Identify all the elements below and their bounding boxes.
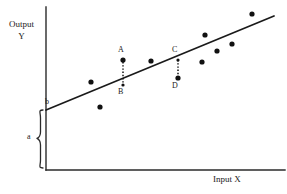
data-point	[249, 11, 254, 16]
y-axis-label-line2: Y	[9, 32, 34, 41]
y-axis-label-line1: Output	[9, 19, 34, 29]
data-point	[199, 59, 204, 64]
chart-canvas	[0, 0, 287, 194]
brace-label-a: a	[27, 133, 31, 141]
fitted-point-c	[176, 58, 179, 61]
x-axis-label: Input X	[213, 175, 241, 184]
intercept-brace	[37, 110, 43, 168]
regression-line	[46, 16, 274, 110]
annotation-label-d: D	[172, 82, 178, 90]
annotation-label-b: B	[118, 88, 123, 96]
data-point	[202, 32, 207, 37]
data-points	[88, 11, 254, 109]
annotation-label-a: A	[118, 46, 124, 54]
annotation-label-c: C	[172, 46, 177, 54]
regression-scatter-chart: Output Y Input X a b A B C D	[0, 0, 287, 194]
intercept-label-b: b	[45, 98, 49, 106]
data-point	[214, 48, 219, 53]
data-point	[88, 79, 93, 84]
data-point	[120, 57, 125, 62]
data-point	[229, 41, 234, 46]
y-axis-label: Output Y	[9, 20, 34, 41]
data-point	[148, 58, 153, 63]
data-point	[97, 104, 102, 109]
